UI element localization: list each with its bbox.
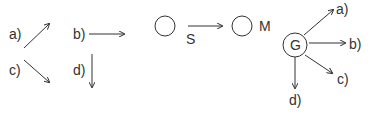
arrow-a-up-right — [24, 24, 49, 48]
edge-label-s: S — [186, 32, 195, 46]
label-c: c) — [9, 63, 21, 77]
diagram-canvas — [0, 0, 370, 115]
node-source-circle — [155, 16, 175, 36]
label-a: a) — [9, 27, 21, 41]
label-d: d) — [73, 63, 85, 77]
arrow-g-a — [304, 10, 333, 35]
g-label-b: b) — [349, 37, 361, 51]
g-label-c: c) — [337, 72, 349, 86]
label-b: b) — [73, 27, 85, 41]
node-label-m: M — [259, 19, 271, 33]
arrow-c-down-right — [24, 60, 49, 82]
g-label-d: d) — [289, 93, 301, 107]
arrow-g-c — [305, 55, 332, 73]
node-m-circle — [232, 16, 252, 36]
g-label-a: a) — [336, 2, 348, 16]
node-label-g: G — [290, 38, 301, 52]
